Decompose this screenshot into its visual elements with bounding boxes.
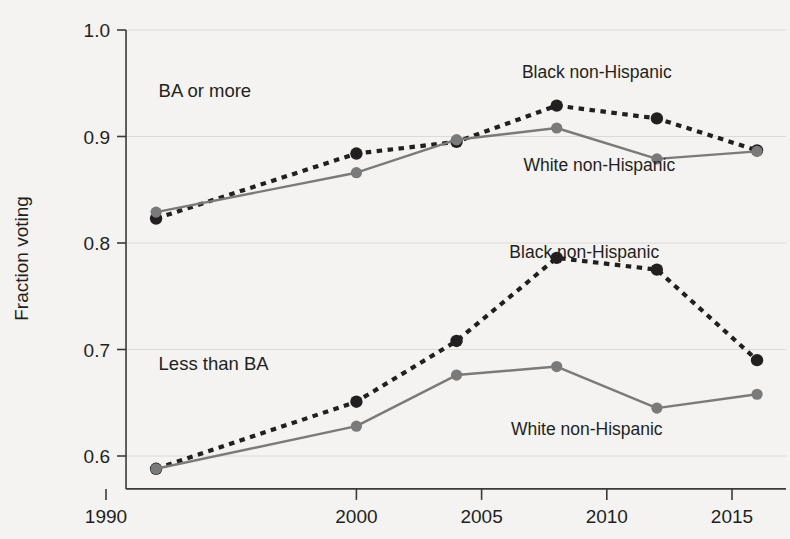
data-point-white-non-hispanic-2000	[351, 421, 362, 432]
line-chart-voting-by-education: 0.60.70.80.91.019902000200520102015Fract…	[0, 0, 790, 539]
y-tick-label-0.8: 0.8	[84, 233, 110, 254]
series-annotation-less-than-ba-black-non-hispanic: Black non-Hispanic	[509, 242, 659, 262]
data-point-white-non-hispanic-2008	[551, 122, 562, 133]
y-tick-label-0.7: 0.7	[84, 340, 110, 361]
data-point-black-non-hispanic-2000	[350, 147, 362, 159]
data-point-white-non-hispanic-2004	[451, 369, 462, 380]
data-point-white-non-hispanic-1992	[150, 463, 161, 474]
data-point-white-non-hispanic-2016	[751, 146, 762, 157]
data-point-white-non-hispanic-2004	[451, 134, 462, 145]
y-tick-label-1.0: 1.0	[84, 20, 110, 41]
data-point-black-non-hispanic-2008	[551, 99, 563, 111]
data-point-black-non-hispanic-2004	[450, 335, 462, 347]
data-point-black-non-hispanic-2000	[350, 395, 362, 407]
data-point-white-non-hispanic-1992	[150, 207, 161, 218]
x-tick-label-1990: 1990	[85, 506, 127, 527]
series-annotation-ba-or-more-white-non-hispanic: White non-Hispanic	[523, 155, 675, 175]
data-point-white-non-hispanic-2008	[551, 361, 562, 372]
data-point-black-non-hispanic-2012	[651, 263, 663, 275]
group-label-less-than-ba: Less than BA	[159, 353, 270, 374]
data-point-white-non-hispanic-2000	[351, 167, 362, 178]
y-tick-label-0.6: 0.6	[84, 446, 110, 467]
data-point-white-non-hispanic-2012	[651, 402, 662, 413]
series-annotation-ba-or-more-black-non-hispanic: Black non-Hispanic	[522, 62, 672, 82]
data-point-white-non-hispanic-2016	[751, 389, 762, 400]
chart-figure: 0.60.70.80.91.019902000200520102015Fract…	[0, 0, 790, 539]
y-axis-title: Fraction voting	[11, 196, 32, 321]
group-label-ba-or-more: BA or more	[159, 80, 252, 101]
x-tick-label-2015: 2015	[711, 506, 753, 527]
x-tick-label-2010: 2010	[586, 506, 628, 527]
series-annotation-less-than-ba-white-non-hispanic: White non-Hispanic	[511, 419, 663, 439]
x-tick-label-2000: 2000	[335, 506, 377, 527]
data-point-black-non-hispanic-2016	[751, 354, 763, 366]
y-tick-label-0.9: 0.9	[84, 127, 110, 148]
x-tick-label-2005: 2005	[460, 506, 502, 527]
data-point-black-non-hispanic-2012	[651, 112, 663, 124]
